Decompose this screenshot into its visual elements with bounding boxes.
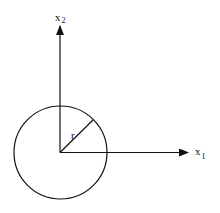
x1-axis-label: x1 (195, 145, 206, 161)
x1-label-main: x (195, 145, 201, 157)
radius-label: r (71, 129, 75, 141)
x1-label-subscript: 1 (202, 152, 206, 161)
x2-axis-label: x2 (55, 11, 66, 25)
x2-label-subscript: 2 (62, 16, 66, 25)
radius-line (60, 120, 93, 153)
x2-label-main: x (55, 11, 61, 23)
circle-axes-diagram: r x2 x1 (0, 0, 220, 213)
